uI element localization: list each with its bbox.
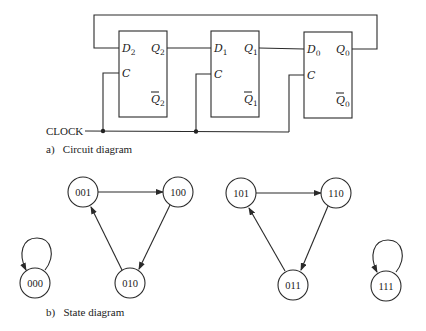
qbar-label: Q xyxy=(336,94,345,107)
state-111: 111 xyxy=(371,271,401,301)
qbar-sub: 1 xyxy=(253,99,258,108)
d-sub: 2 xyxy=(131,48,136,57)
clock-wire-ff1 xyxy=(196,74,211,131)
junction-dot xyxy=(101,129,105,133)
flip-flop-0: D0 C Q0 Q0 xyxy=(304,32,352,118)
clock-label: CLOCK xyxy=(46,125,83,137)
qbar-label: Q xyxy=(151,93,160,106)
self-loop-000 xyxy=(22,238,51,270)
state-diagram: 000 001 100 010 101 110 011 111 xyxy=(20,177,402,319)
circuit-caption: a) Circuit diagram xyxy=(46,143,133,156)
clock-wire-ff0 xyxy=(289,75,304,132)
q-label: Q xyxy=(244,42,253,55)
q-sub: 0 xyxy=(345,49,350,58)
edge-100-010 xyxy=(139,205,170,269)
circuit-diagram: CLOCK D2 C Q2 Q2 D1 C Q1 Q1 D0 C Q0 Q0 xyxy=(46,15,377,156)
edge-010-001 xyxy=(91,207,122,270)
edge-110-011 xyxy=(301,206,328,270)
state-100: 100 xyxy=(163,177,193,207)
flip-flop-1: D1 C Q1 Q1 xyxy=(211,31,259,117)
clock-wire-ff2 xyxy=(103,73,119,131)
q-sub: 2 xyxy=(160,48,165,57)
qbar-sub: 2 xyxy=(160,99,165,108)
q-label: Q xyxy=(151,42,160,55)
c-label: C xyxy=(214,68,223,81)
svg-text:000: 000 xyxy=(27,278,43,289)
wire-q1-d0 xyxy=(259,48,304,49)
flip-flop-2: D2 C Q2 Q2 xyxy=(119,31,167,117)
d-sub: 1 xyxy=(223,48,228,57)
d-label: D xyxy=(306,43,316,56)
svg-text:011: 011 xyxy=(285,280,300,291)
shift-register-figure: CLOCK D2 C Q2 Q2 D1 C Q1 Q1 D0 C Q0 Q0 xyxy=(0,0,426,331)
state-101: 101 xyxy=(226,178,256,208)
edge-011-101 xyxy=(249,208,285,271)
q-label: Q xyxy=(336,43,345,56)
svg-text:111: 111 xyxy=(379,281,394,292)
svg-text:010: 010 xyxy=(122,278,138,289)
d-label: D xyxy=(121,42,131,55)
state-000: 000 xyxy=(20,268,50,298)
c-label: C xyxy=(307,69,316,82)
qbar-sub: 0 xyxy=(345,100,350,109)
d-sub: 0 xyxy=(316,49,321,58)
self-loop-111 xyxy=(373,240,402,272)
state-010: 010 xyxy=(115,268,145,298)
state-110: 110 xyxy=(321,178,351,208)
state-011: 011 xyxy=(278,270,308,300)
state-001: 001 xyxy=(68,177,98,207)
q-sub: 1 xyxy=(253,48,258,57)
svg-text:100: 100 xyxy=(170,187,186,198)
state-diagram-caption: b) State diagram xyxy=(46,306,125,319)
d-label: D xyxy=(213,42,223,55)
c-label: C xyxy=(122,67,131,80)
clock-wire xyxy=(85,131,289,132)
qbar-label: Q xyxy=(244,93,253,106)
svg-text:001: 001 xyxy=(75,187,91,198)
svg-text:101: 101 xyxy=(233,188,249,199)
svg-text:110: 110 xyxy=(328,188,343,199)
junction-dot xyxy=(194,129,198,133)
